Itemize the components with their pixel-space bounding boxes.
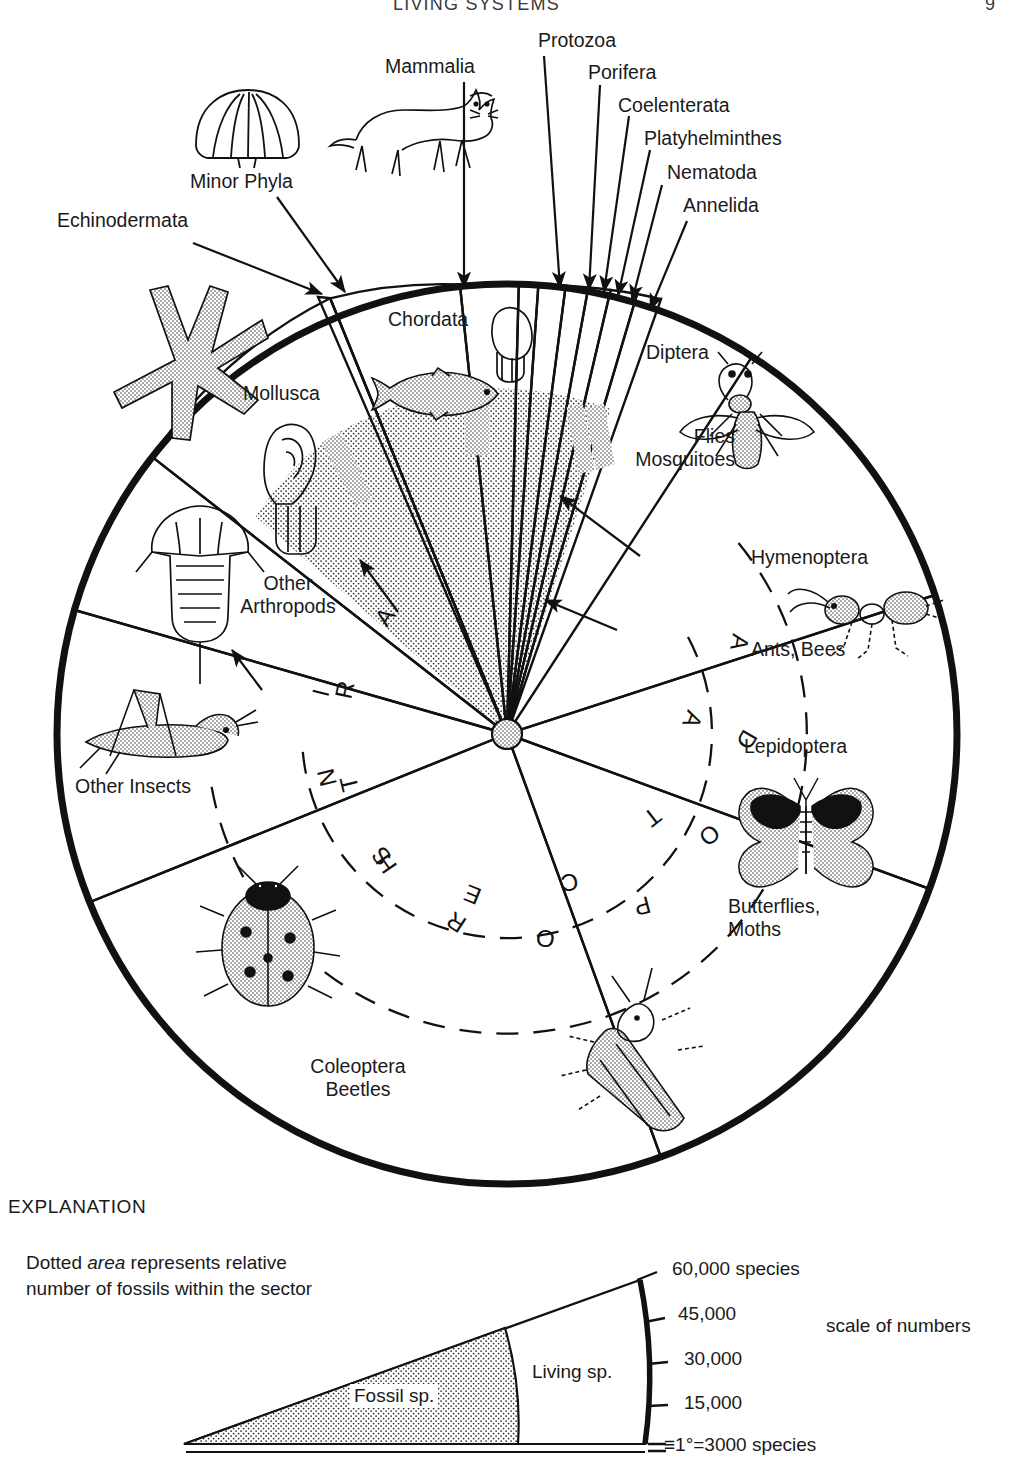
sector-label-other-arthropods: Other Arthropods: [203, 572, 373, 618]
callout-label-porifera: Porifera: [588, 61, 656, 84]
leader-nematoda: [632, 185, 662, 301]
callout-label-minor-phyla: Minor Phyla: [190, 170, 293, 193]
callout-label-nematoda: Nematoda: [667, 161, 757, 184]
center-hub: [492, 719, 522, 749]
sketch-scallop-shell: [196, 90, 299, 168]
leader-platyhelminthes: [618, 150, 650, 296]
scale-base-tick: ≡1°=3000 species: [664, 1434, 816, 1456]
svg-text:T: T: [638, 802, 666, 833]
leader-protozoa: [544, 56, 560, 288]
callout-label-echinodermata: Echinodermata: [57, 209, 188, 232]
leader-minor-phyla: [277, 197, 345, 292]
explanation-heading: EXPLANATION: [8, 1196, 146, 1218]
callout-label-coelenterata: Coelenterata: [618, 94, 730, 117]
sector-label-lepidoptera: Lepidoptera: [744, 735, 847, 758]
sketch-starfish-echinodermata: [114, 286, 268, 440]
explanation-note-a: Dotted: [26, 1252, 87, 1273]
sector-label-lepidoptera-common: Butterflies, Moths: [728, 895, 820, 941]
page-number: 9: [985, 0, 996, 15]
svg-text:A: A: [677, 707, 708, 732]
explanation-note-italic: area: [87, 1252, 125, 1273]
sector-label-hymenoptera: Hymenoptera: [751, 546, 868, 569]
scale-living-label: Living sp.: [528, 1360, 616, 1384]
sector-label-diptera: Diptera: [646, 341, 709, 364]
scale-value-60000: 60,000 species: [672, 1258, 800, 1280]
explanation-note: Dotted area represents relativenumber of…: [26, 1250, 312, 1301]
scale-value-60000-num: 60,000: [672, 1258, 730, 1279]
explanation-note-line2: number of fossils within the sector: [26, 1278, 312, 1299]
sketch-beetle-coleoptera-2: [560, 968, 704, 1131]
svg-text:P: P: [631, 891, 653, 921]
sketch-grasshopper-other-insects: [80, 690, 258, 774]
sector-label-chordata: Chordata: [388, 308, 468, 331]
arc-label-arthropoda: A R T H R O P O D A: [329, 602, 763, 953]
svg-text:O: O: [534, 924, 557, 954]
scale-value-15000: 15,000: [684, 1392, 742, 1414]
scale-value-30000: 30,000: [684, 1348, 742, 1370]
callout-label-mammalia: Mammalia: [385, 55, 475, 78]
scale-tick-60000: [637, 1272, 657, 1280]
callout-label-protozoa: Protozoa: [538, 29, 616, 52]
sector-coleoptera: [88, 734, 661, 1185]
svg-text:R: R: [329, 678, 359, 701]
scale-value-45000: 45,000: [678, 1303, 736, 1325]
scale-caption: scale of numbers: [826, 1315, 971, 1337]
sector-label-diptera-common: Flies Mosquitoes: [570, 425, 735, 471]
sector-label-hymenoptera-common: Ants, Bees: [751, 638, 845, 661]
scale-value-60000-suffix: species: [730, 1258, 800, 1279]
callout-label-platyhelminthes: Platyhelminthes: [644, 127, 782, 150]
svg-text:C: C: [559, 868, 580, 897]
leader-porifera: [589, 85, 600, 290]
sector-label-other-insects: Other Insects: [75, 775, 191, 798]
leader-annelida: [650, 221, 687, 310]
page-title: LIVING SYSTEMS: [393, 0, 560, 15]
explanation-note-b: represents relative: [125, 1252, 287, 1273]
arrow-insecta-to-sector: [232, 650, 262, 690]
sector-label-mollusca: Mollusca: [243, 382, 320, 405]
svg-text:O: O: [694, 819, 725, 852]
sketch-butterfly-lepidoptera: [739, 778, 873, 887]
svg-text:E: E: [460, 879, 485, 910]
callout-label-annelida: Annelida: [683, 194, 759, 217]
scale-tick-15000: [648, 1405, 668, 1406]
scale-fossil-label: Fossil sp.: [350, 1384, 438, 1408]
sketch-ladybug-coleoptera: [196, 866, 340, 1006]
sketch-sponge-porifera: [492, 308, 532, 382]
arrow-insecta-right: [545, 600, 617, 630]
sector-label-coleoptera: Coleoptera Beetles: [258, 1055, 458, 1101]
sketch-cat-mammalia: [330, 90, 498, 176]
